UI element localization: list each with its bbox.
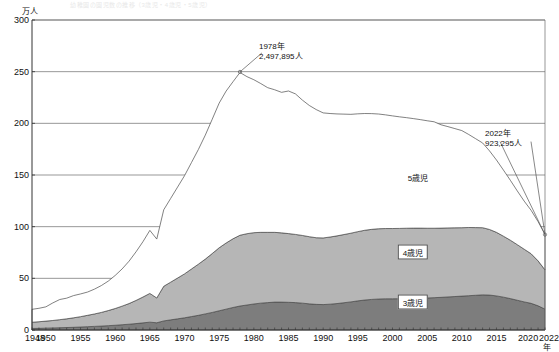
band-label-3歳児: 3歳児 xyxy=(398,295,428,310)
band-label-5歳児: 5歳児 xyxy=(408,172,428,183)
peak-annotation: 1978年2,497,895人 xyxy=(259,42,303,62)
peak-annotation-year: 1978年 xyxy=(259,42,303,52)
latest-annotation-value: 923,295人 xyxy=(485,139,522,149)
latest-annotation: 2022年923,295人 xyxy=(485,129,522,149)
peak-annotation-value: 2,497,895人 xyxy=(259,52,303,62)
latest-annotation-year: 2022年 xyxy=(485,129,522,139)
band-label-4歳児: 4歳児 xyxy=(398,245,428,260)
